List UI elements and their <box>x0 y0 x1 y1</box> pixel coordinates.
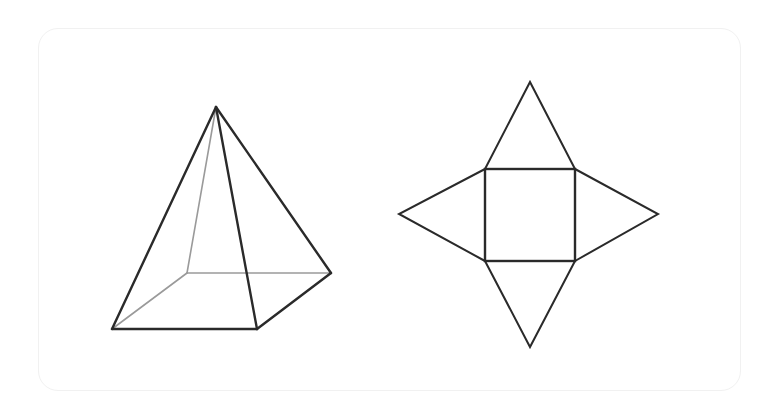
edge-front-right-back-right <box>257 273 331 329</box>
square-pyramid <box>112 107 331 329</box>
edge-apex-front-left <box>112 107 216 329</box>
net-triangle-bottom <box>485 261 575 347</box>
pyramid-visible-edges <box>112 107 331 329</box>
hidden-edge-back-left-front-left <box>112 273 187 329</box>
edge-apex-front-right <box>216 107 257 329</box>
hidden-edge-apex-back-left <box>187 107 216 273</box>
net-square-base <box>485 169 575 261</box>
net-triangle-left <box>399 169 485 261</box>
net-triangle-top <box>485 82 575 169</box>
net-triangle-right <box>575 169 658 261</box>
square-pyramid-net <box>399 82 658 347</box>
diagram-canvas <box>0 0 769 406</box>
edge-apex-back-right <box>216 107 331 273</box>
